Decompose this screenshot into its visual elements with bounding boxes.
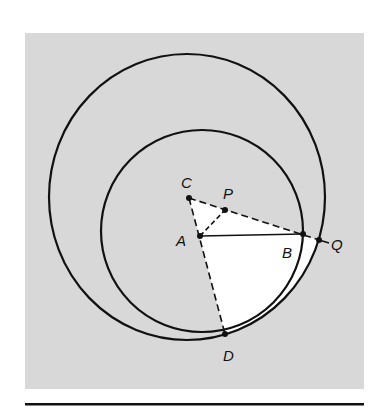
point-b xyxy=(300,231,306,237)
point-p xyxy=(222,207,228,213)
point-q xyxy=(316,237,322,243)
point-a xyxy=(197,233,203,239)
label-d: D xyxy=(223,347,234,364)
label-c: C xyxy=(181,174,192,191)
point-c xyxy=(186,195,192,201)
label-b: B xyxy=(282,244,292,261)
label-p: P xyxy=(223,185,233,202)
label-q: Q xyxy=(331,236,343,253)
geometry-figure: C P A B Q D xyxy=(0,0,381,411)
bottom-rule xyxy=(25,403,364,406)
label-a: A xyxy=(175,232,186,249)
point-d xyxy=(222,331,228,337)
